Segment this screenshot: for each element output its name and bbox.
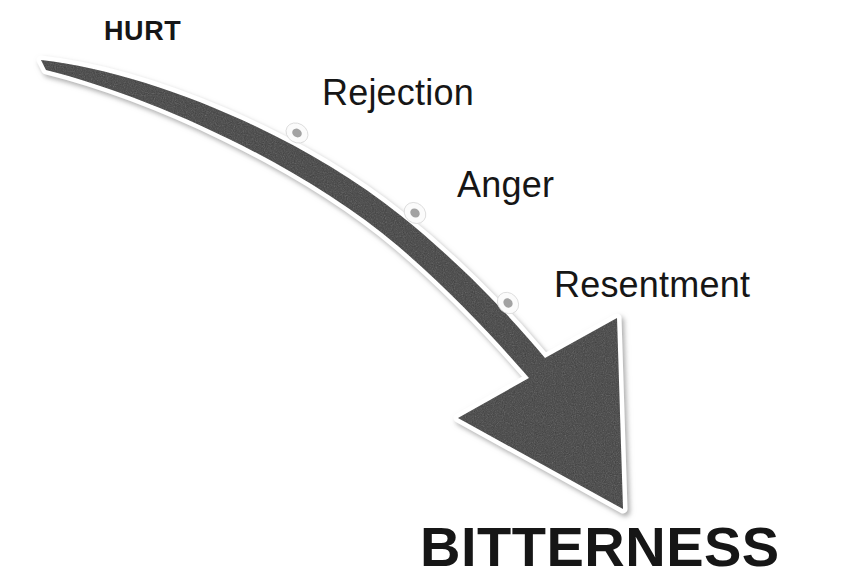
stage-label-rejection: Rejection (322, 75, 474, 111)
stage-label-bitterness: BITTERNESS (420, 519, 780, 575)
stage-label-anger: Anger (457, 167, 554, 203)
diagram-canvas: HURT Rejection Anger Resentment BITTERNE… (0, 0, 854, 583)
stage-label-hurt: HURT (104, 18, 181, 45)
arrow-body (41, 60, 623, 509)
stage-label-resentment: Resentment (554, 267, 750, 303)
